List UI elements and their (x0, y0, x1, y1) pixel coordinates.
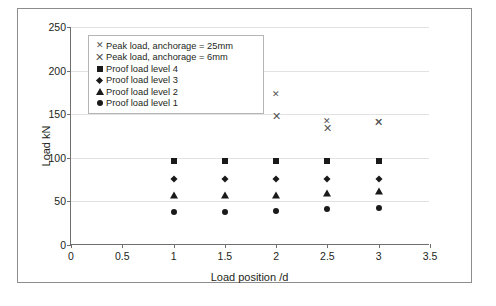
data-point (324, 206, 330, 212)
legend-marker-square-icon (93, 66, 106, 72)
legend-item-label: Proof load level 2 (106, 87, 178, 97)
x-tick-label: 3 (376, 250, 382, 262)
data-point: ✕ (272, 90, 280, 99)
data-point (171, 209, 177, 215)
data-point (273, 158, 279, 164)
gridline (71, 27, 429, 28)
legend-marker-cross-small-icon: ✕ (93, 41, 106, 50)
x-tick-label: 3.5 (423, 250, 438, 262)
y-tick-label: 0 (60, 239, 66, 251)
y-tick-label: 50 (54, 195, 66, 207)
x-tick-mark (71, 244, 72, 248)
legend-item: Proof load level 1 (93, 98, 258, 110)
data-point (376, 158, 382, 164)
x-tick-label: 1.5 (218, 250, 233, 262)
x-tick-label: 1 (171, 250, 177, 262)
data-point: ✕ (323, 123, 332, 134)
legend-marker-triangle-icon (93, 88, 106, 95)
data-point (272, 192, 280, 199)
x-tick-label: 2.5 (320, 250, 335, 262)
data-point (222, 176, 227, 181)
x-tick-mark (379, 244, 380, 248)
data-point (325, 176, 330, 181)
y-tick-mark (67, 27, 71, 28)
legend-item: ✕Peak load, anchorage = 6mm (93, 52, 258, 64)
legend-marker-circle-icon (93, 100, 106, 106)
y-tick-label: 100 (48, 152, 66, 164)
x-tick-mark (174, 244, 175, 248)
data-point: ✕ (374, 117, 383, 128)
data-point (222, 158, 228, 164)
legend-item-label: Proof load level 1 (106, 98, 178, 108)
chart-legend: ✕Peak load, anchorage = 25mm✕Peak load, … (88, 35, 264, 114)
x-tick-label: 0.5 (115, 250, 130, 262)
x-tick-label: 2 (273, 250, 279, 262)
x-axis-title: Load position /d (70, 271, 429, 283)
y-tick-mark (67, 201, 71, 202)
y-tick-label: 250 (48, 21, 66, 33)
data-point (171, 158, 177, 164)
x-tick-mark (225, 244, 226, 248)
legend-item-label: Proof load level 4 (106, 64, 178, 74)
figure-frame: Load kN Load position /d 050100150200250… (17, 8, 472, 283)
legend-marker-diamond-icon (93, 78, 106, 83)
data-point (376, 176, 381, 181)
data-point (376, 205, 382, 211)
legend-marker-cross-large-icon: ✕ (93, 52, 106, 63)
y-tick-mark (67, 71, 71, 72)
x-tick-mark (122, 244, 123, 248)
x-tick-mark (327, 244, 328, 248)
data-point (324, 158, 330, 164)
legend-item-label: Peak load, anchorage = 25mm (106, 41, 233, 51)
x-tick-mark (430, 244, 431, 248)
data-point (273, 208, 279, 214)
gridline (71, 201, 429, 202)
y-tick-label: 200 (48, 65, 66, 77)
data-point (222, 209, 228, 215)
y-tick-mark (67, 158, 71, 159)
y-tick-label: 150 (48, 108, 66, 120)
data-point (170, 192, 178, 199)
data-point (274, 176, 279, 181)
x-tick-mark (276, 244, 277, 248)
data-point: ✕ (272, 110, 281, 121)
legend-item: Proof load level 3 (93, 75, 258, 87)
data-point (375, 187, 383, 194)
data-point (323, 189, 331, 196)
legend-item: ✕Peak load, anchorage = 25mm (93, 40, 258, 52)
data-point (171, 176, 176, 181)
legend-item-label: Proof load level 3 (106, 75, 178, 85)
legend-item: Proof load level 4 (93, 63, 258, 75)
legend-item-label: Peak load, anchorage = 6mm (106, 52, 228, 62)
data-point (221, 192, 229, 199)
x-tick-label: 0 (68, 250, 74, 262)
legend-item: Proof load level 2 (93, 86, 258, 98)
y-tick-mark (67, 114, 71, 115)
